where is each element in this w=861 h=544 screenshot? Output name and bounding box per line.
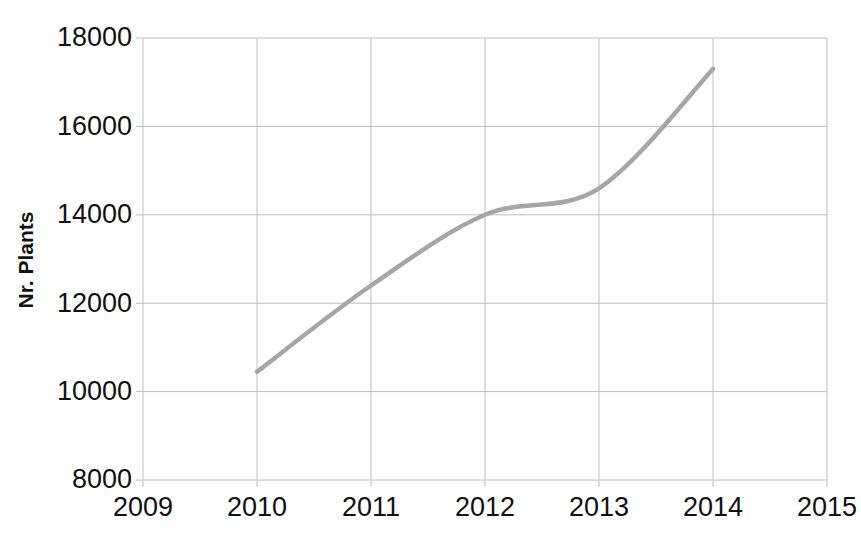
grid-lines (143, 38, 827, 480)
axis-tick-marks (136, 38, 827, 487)
line-chart: Nr. Plants 18000 16000 14000 12000 10000… (0, 0, 861, 544)
plot-area (0, 0, 861, 544)
